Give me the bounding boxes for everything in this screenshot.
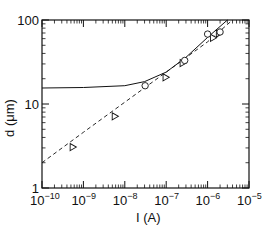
minor-ticks [42, 20, 249, 188]
x-tick-label: 10−5 [237, 191, 262, 208]
solid-fit-curve [42, 20, 227, 88]
circle-marker [217, 29, 223, 35]
x-axis-title: I (A) [136, 210, 161, 225]
data-markers [67, 28, 223, 151]
y-axis-title: d (μm) [2, 99, 17, 137]
circle-marker [142, 83, 148, 89]
y-tick-label: 100 [17, 13, 39, 28]
x-tick-label: 10−8 [113, 191, 138, 208]
y-tick-labels: 110100 [17, 13, 39, 196]
svg-text:10−8: 10−8 [113, 191, 138, 208]
triangle-marker [160, 72, 169, 81]
circle-marker [182, 57, 188, 63]
svg-text:10−7: 10−7 [154, 191, 179, 208]
x-tick-labels: 10−1010−910−810−710−610−5 [30, 191, 262, 208]
major-ticks [42, 20, 249, 188]
triangle-marker [67, 142, 76, 151]
svg-text:10−9: 10−9 [71, 191, 96, 208]
x-tick-label: 10−7 [154, 191, 179, 208]
svg-text:10−6: 10−6 [196, 191, 221, 208]
chart: 10−1010−910−810−710−610−5 110100 I (A) d… [0, 0, 273, 232]
svg-text:10−5: 10−5 [237, 191, 262, 208]
circle-marker [204, 31, 210, 37]
y-tick-label: 10 [25, 97, 39, 112]
y-tick-label: 1 [32, 181, 39, 196]
plot-frame [42, 20, 249, 188]
x-tick-label: 10−9 [71, 191, 96, 208]
x-tick-label: 10−6 [196, 191, 221, 208]
